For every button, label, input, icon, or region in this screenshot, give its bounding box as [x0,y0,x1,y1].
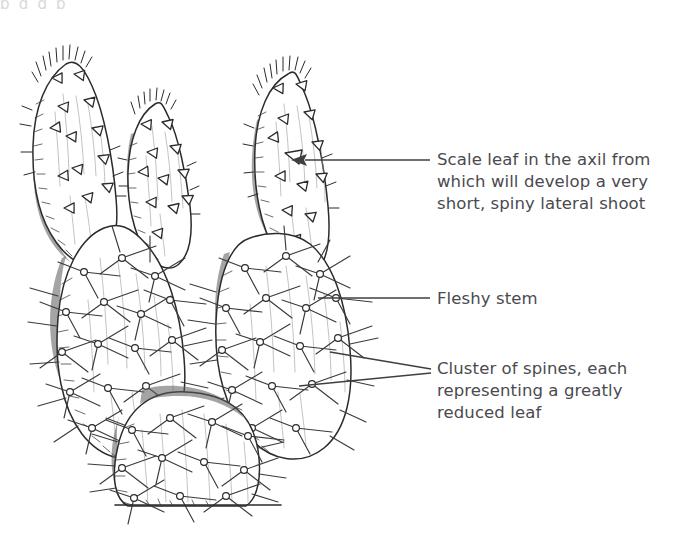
annotation-fleshy-stem: Fleshy stem [437,288,687,310]
cactus-line-drawing: .ol { fill:#ffffff; stroke:#2b2b2b; stro… [0,0,690,535]
annotation-scale-leaf: Scale leaf in the axil from which will d… [437,149,687,215]
annotation-spine-cluster: Cluster of spines, each representing a g… [437,358,687,424]
cactus-figure: p g g p .ol { fill:#ffffff; stroke:#2b2b… [0,0,690,535]
